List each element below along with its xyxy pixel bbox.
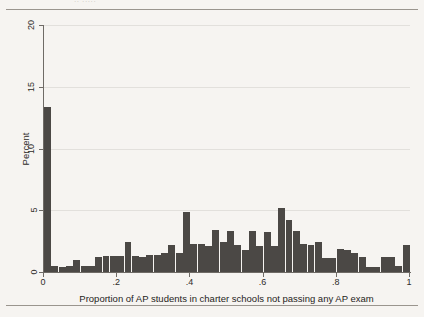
histogram-bars xyxy=(44,25,410,272)
histogram-bar xyxy=(271,246,278,272)
histogram-bar xyxy=(278,208,285,272)
y-tick-20 xyxy=(39,25,43,26)
histogram-bar xyxy=(234,245,241,272)
histogram-bar xyxy=(359,257,366,272)
histogram-bar xyxy=(66,266,73,272)
y-tick-label-5: 5 xyxy=(28,208,38,213)
histogram-bar xyxy=(139,257,146,272)
histogram-bar xyxy=(403,245,410,272)
histogram-bar xyxy=(249,231,256,272)
x-tick-label-.2: .2 xyxy=(112,277,120,287)
histogram-bar xyxy=(242,250,249,272)
y-tick-10 xyxy=(39,149,43,150)
histogram-bar xyxy=(293,231,300,272)
histogram-bar xyxy=(51,266,58,272)
histogram-bar xyxy=(220,242,227,272)
y-tick-5 xyxy=(39,210,43,211)
histogram-bar xyxy=(308,245,315,272)
histogram-bar xyxy=(337,249,344,272)
histogram-bar xyxy=(366,267,373,272)
histogram-bar xyxy=(256,246,263,272)
histogram-bar xyxy=(146,255,153,272)
histogram-bar xyxy=(286,220,293,272)
histogram-bar xyxy=(125,242,132,272)
histogram-bar xyxy=(395,266,402,272)
page-rule-top xyxy=(6,9,418,10)
x-axis-line xyxy=(43,272,411,273)
histogram-bar xyxy=(88,266,95,272)
y-tick-label-0: 0 xyxy=(28,269,38,274)
histogram-bar xyxy=(110,256,117,272)
histogram-bar xyxy=(95,257,102,272)
histogram-bar xyxy=(264,232,271,272)
histogram-bar xyxy=(154,255,161,272)
histogram-chart: 05101520 0.2.4.6.81 Percent Proportion o… xyxy=(43,25,410,272)
x-tick-label-.8: .8 xyxy=(332,277,340,287)
histogram-bar xyxy=(329,258,336,272)
y-tick-15 xyxy=(39,87,43,88)
x-axis-title: Proportion of AP students in charter sch… xyxy=(79,293,373,304)
histogram-bar xyxy=(161,253,168,272)
histogram-bar xyxy=(198,244,205,272)
histogram-bar xyxy=(205,246,212,272)
scan-artifact-text: ·· ····· xyxy=(74,0,96,5)
x-tick-label-.4: .4 xyxy=(186,277,194,287)
histogram-bar xyxy=(344,250,351,272)
histogram-bar xyxy=(381,257,388,272)
histogram-bar xyxy=(81,266,88,272)
y-tick-label-15: 15 xyxy=(26,82,36,92)
histogram-bar xyxy=(373,267,380,272)
histogram-bar xyxy=(103,256,110,272)
histogram-bar xyxy=(227,231,234,272)
histogram-bar xyxy=(168,245,175,272)
x-tick-label-.6: .6 xyxy=(259,277,267,287)
histogram-bar xyxy=(315,242,322,272)
histogram-bar xyxy=(212,230,219,272)
histogram-bar xyxy=(300,244,307,272)
y-axis-title: Percent xyxy=(20,132,31,165)
histogram-bar xyxy=(183,212,190,273)
histogram-bar xyxy=(132,256,139,272)
histogram-bar xyxy=(73,260,80,272)
histogram-bar xyxy=(59,267,66,272)
histogram-bar xyxy=(117,256,124,272)
scanned-page: ·· ····· 05101520 0.2.4.6.81 Percent Pro… xyxy=(0,0,424,317)
x-tick-label-0: 0 xyxy=(40,277,45,287)
page-rule-bottom xyxy=(6,305,418,306)
histogram-bar xyxy=(351,253,358,272)
y-tick-label-20: 20 xyxy=(26,20,36,30)
histogram-bar xyxy=(322,258,329,272)
histogram-bar xyxy=(176,253,183,272)
x-tick-label-1: 1 xyxy=(406,277,411,287)
histogram-bar xyxy=(190,244,197,272)
histogram-bar xyxy=(44,107,51,272)
histogram-bar xyxy=(388,257,395,272)
